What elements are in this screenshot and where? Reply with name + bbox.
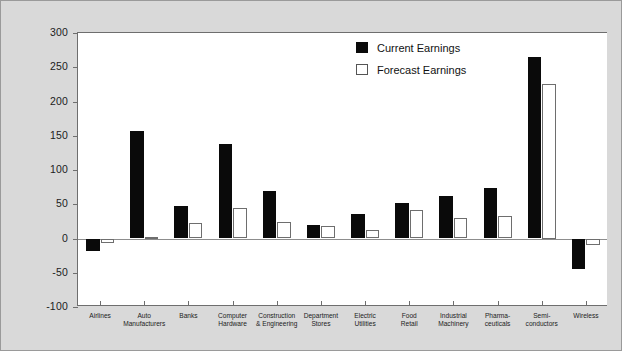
bar-forecast-earnings: [145, 237, 159, 239]
x-axis-tick-mark: [542, 301, 543, 306]
y-axis-tick-label: 100: [50, 163, 68, 175]
x-axis-category-label: Wireless: [559, 312, 613, 320]
bar-group: [211, 33, 255, 305]
y-axis-tick-label: 0: [62, 232, 68, 244]
legend-label-forecast-earnings: Forecast Earnings: [377, 64, 466, 76]
x-axis-tick-mark: [100, 301, 101, 306]
bar-forecast-earnings: [410, 210, 424, 238]
bar-forecast-earnings: [189, 223, 203, 238]
bar-current-earnings: [86, 239, 100, 251]
x-axis-tick-mark: [321, 301, 322, 306]
x-axis-tick-mark: [409, 301, 410, 306]
bar-forecast-earnings: [101, 239, 115, 243]
bar-group: [520, 33, 564, 305]
bar-current-earnings: [439, 196, 453, 238]
bar-group: [122, 33, 166, 305]
y-axis-tick-label: 200: [50, 95, 68, 107]
bar-group: [299, 33, 343, 305]
legend-swatch-current-earnings: [356, 42, 368, 53]
bar-forecast-earnings: [321, 226, 335, 238]
bar-group: [255, 33, 299, 305]
legend-item-forecast-earnings: Forecast Earnings: [356, 63, 466, 76]
bar-forecast-earnings: [454, 218, 468, 239]
bar-forecast-earnings: [498, 216, 512, 239]
bar-forecast-earnings: [366, 230, 380, 239]
x-axis-tick-mark: [498, 301, 499, 306]
bar-group: [78, 33, 122, 305]
bar-current-earnings: [263, 191, 277, 239]
bar-group: [166, 33, 210, 305]
chart-legend: Current Earnings Forecast Earnings: [356, 41, 466, 85]
y-axis-tick-label: 300: [50, 26, 68, 38]
bar-forecast-earnings: [233, 208, 247, 238]
y-axis-tick-mark: [73, 307, 78, 308]
x-axis-tick-mark: [233, 301, 234, 306]
y-axis-tick-label: 50: [56, 197, 68, 209]
bar-group: [476, 33, 520, 305]
y-axis-tick-label: 150: [50, 129, 68, 141]
x-axis-tick-mark: [144, 301, 145, 306]
x-axis-tick-mark: [586, 301, 587, 306]
bar-current-earnings: [219, 144, 233, 239]
bar-current-earnings: [484, 188, 498, 239]
chart-figure: 300250200150100500-50-100 AirlinesAuto M…: [0, 0, 622, 351]
y-axis-tick-label: 250: [50, 60, 68, 72]
bar-current-earnings: [174, 206, 188, 238]
x-axis-tick-mark: [365, 301, 366, 306]
legend-swatch-forecast-earnings: [356, 64, 368, 75]
y-axis-tick-label: -50: [52, 266, 68, 278]
bar-current-earnings: [528, 57, 542, 239]
bar-forecast-earnings: [277, 222, 291, 238]
bar-group: [564, 33, 608, 305]
bar-series-container: [78, 33, 607, 305]
legend-label-current-earnings: Current Earnings: [377, 42, 460, 54]
bar-current-earnings: [130, 131, 144, 239]
bar-forecast-earnings: [542, 84, 556, 238]
x-axis-tick-mark: [188, 301, 189, 306]
x-axis-tick-mark: [277, 301, 278, 306]
bar-current-earnings: [395, 203, 409, 239]
x-axis-tick-mark: [453, 301, 454, 306]
y-axis-tick-label: -100: [46, 300, 68, 312]
bar-current-earnings: [307, 225, 321, 239]
bar-current-earnings: [351, 214, 365, 239]
plot-area: 300250200150100500-50-100 AirlinesAuto M…: [77, 32, 607, 306]
legend-item-current-earnings: Current Earnings: [356, 41, 466, 54]
bar-forecast-earnings: [586, 239, 600, 246]
bar-current-earnings: [572, 239, 586, 270]
